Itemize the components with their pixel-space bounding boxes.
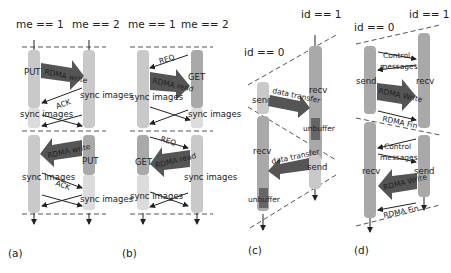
put-label: PUT (24, 67, 41, 77)
header-left: me == 1 (128, 18, 176, 30)
panel-label: (a) (8, 247, 23, 259)
svg-text:send: send (307, 162, 327, 172)
panel-b: me == 1 me == 2 REQ RDMA read GET sync i… (122, 18, 242, 259)
svg-text:Control: Control (384, 142, 411, 151)
svg-text:Control: Control (383, 51, 410, 60)
svg-text:sync images: sync images (20, 109, 74, 119)
svg-text:GET: GET (188, 72, 206, 82)
svg-text:sync images: sync images (80, 194, 134, 204)
svg-text:REQ: REQ (158, 52, 176, 65)
panel-label: (d) (354, 244, 369, 256)
svg-text:messages: messages (380, 153, 418, 162)
svg-text:send: send (356, 76, 376, 86)
svg-text:REQ: REQ (159, 134, 177, 147)
protocol-diagrams: me == 1 me == 2 RDMA write PUT ACK sync … (0, 0, 451, 273)
svg-text:GET: GET (135, 157, 153, 167)
header-left: id == 0 (354, 21, 395, 33)
svg-text:sync images: sync images (130, 191, 184, 201)
svg-text:sync images: sync images (188, 109, 242, 119)
header-right: me == 2 (181, 18, 229, 30)
svg-text:sync images: sync images (184, 172, 238, 182)
svg-text:unbuffer: unbuffer (248, 195, 281, 204)
svg-text:sync images: sync images (80, 90, 134, 100)
header-right: me == 2 (72, 18, 120, 30)
process-bar (83, 50, 95, 128)
svg-text:sync images: sync images (22, 172, 76, 182)
svg-text:sync images: sync images (130, 92, 184, 102)
panel-label: (b) (122, 247, 137, 259)
header-right: id == 1 (409, 8, 450, 20)
header-left: me == 1 (16, 18, 64, 30)
panel-d: id == 0 id == 1 Control messages send re… (354, 8, 450, 256)
svg-text:PUT: PUT (82, 156, 99, 166)
header-right: id == 1 (301, 8, 342, 20)
svg-text:messages: messages (380, 62, 418, 71)
svg-text:unbuffer: unbuffer (303, 124, 336, 133)
panel-a: me == 1 me == 2 RDMA write PUT ACK sync … (8, 18, 134, 259)
svg-text:recv: recv (253, 146, 271, 156)
process-bar (28, 50, 40, 108)
header-left: id == 0 (244, 46, 285, 58)
svg-text:recv: recv (362, 166, 380, 176)
panel-label: (c) (248, 244, 262, 256)
panel-c: id == 0 id == 1 recv send data transfer … (244, 8, 342, 256)
svg-text:recv: recv (416, 76, 434, 86)
